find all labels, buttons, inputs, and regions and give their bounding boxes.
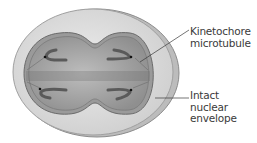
intact-nuclear-envelope-label: Intact nuclear envelope	[190, 90, 257, 125]
nucleus	[24, 33, 153, 115]
label-line: Kinetochore	[190, 26, 251, 38]
kinetochore-microtubule-label: Kinetochore microtubule	[190, 26, 251, 49]
label-line: envelope	[190, 113, 257, 125]
label-line: microtubule	[190, 38, 251, 50]
label-line: Intact nuclear	[190, 90, 257, 113]
